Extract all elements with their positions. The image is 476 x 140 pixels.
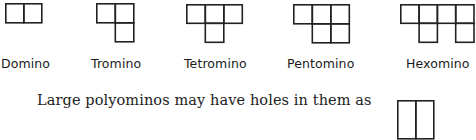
pentomino-label: Pentomino [287, 56, 354, 71]
tetromino-label: Tetromino [184, 56, 247, 71]
hexomino-figure [400, 4, 476, 44]
pentomino-figure [293, 4, 351, 45]
hexomino-label: Hexomino [406, 56, 470, 71]
domino-figure [5, 3, 43, 24]
polyomino-with-hole-figure [397, 100, 435, 140]
tetromino-figure [186, 4, 244, 44]
tromino-figure [96, 3, 135, 43]
domino-label: Domino [1, 56, 50, 71]
tromino-label: Tromino [91, 56, 141, 71]
body-paragraph: Large polyominos may have holes in them … [37, 92, 372, 108]
